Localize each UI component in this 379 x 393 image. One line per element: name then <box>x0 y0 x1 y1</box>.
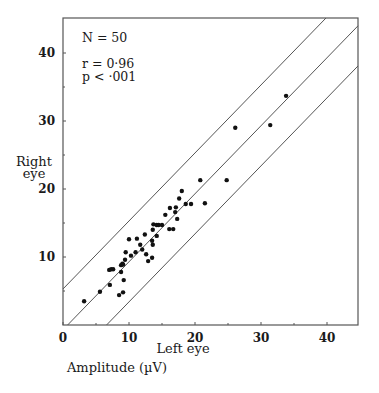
data-point <box>127 237 131 241</box>
data-point <box>268 123 272 127</box>
annotation-n: N = 50 <box>82 30 127 45</box>
data-point <box>203 201 207 205</box>
data-point <box>123 258 127 262</box>
data-point <box>108 283 112 287</box>
data-point <box>189 202 193 206</box>
data-point <box>151 243 155 247</box>
data-point <box>111 267 115 271</box>
data-point <box>180 189 184 193</box>
data-point <box>82 299 86 303</box>
y-tick-label: 20 <box>38 182 55 196</box>
data-point <box>171 227 175 231</box>
data-point <box>133 250 137 254</box>
data-point <box>120 262 124 266</box>
y-axis-label-line2: eye <box>23 166 46 181</box>
data-point <box>135 236 139 240</box>
data-point <box>122 278 126 282</box>
annotation-p: p < ·001 <box>82 69 136 84</box>
data-point <box>151 228 155 232</box>
data-point <box>129 253 133 257</box>
data-point <box>160 223 164 227</box>
y-tick-label: 40 <box>38 46 55 60</box>
y-tick-label: 30 <box>38 114 55 128</box>
data-point <box>173 210 177 214</box>
data-point <box>144 252 148 256</box>
data-point <box>284 94 288 98</box>
data-point <box>168 206 172 210</box>
data-point <box>138 243 142 247</box>
x-tick-label: 0 <box>59 331 67 345</box>
x-tick-label: 10 <box>121 331 138 345</box>
data-point <box>184 202 188 206</box>
data-point <box>177 196 181 200</box>
data-point <box>121 290 125 294</box>
data-point <box>175 217 179 221</box>
data-point <box>233 126 237 130</box>
data-point <box>146 259 150 263</box>
data-point <box>155 234 159 238</box>
data-point <box>163 213 167 217</box>
x-axis-label: Left eye <box>156 341 210 356</box>
data-point <box>167 227 171 231</box>
data-point <box>140 247 144 251</box>
data-point <box>174 205 178 209</box>
y-tick-label: 10 <box>38 250 55 264</box>
data-point <box>98 289 102 293</box>
scatter-chart: 01020304010203040 N = 50 r = 0·96 p < ·0… <box>0 0 379 393</box>
data-point <box>198 178 202 182</box>
data-point <box>143 232 147 236</box>
data-point <box>124 250 128 254</box>
data-point <box>224 178 228 182</box>
data-point <box>117 293 121 297</box>
units-label: Amplitude (µV) <box>66 360 167 375</box>
data-point <box>150 255 154 259</box>
data-point <box>150 238 154 242</box>
data-point <box>119 270 123 274</box>
x-tick-label: 30 <box>253 331 270 345</box>
x-tick-label: 40 <box>319 331 336 345</box>
